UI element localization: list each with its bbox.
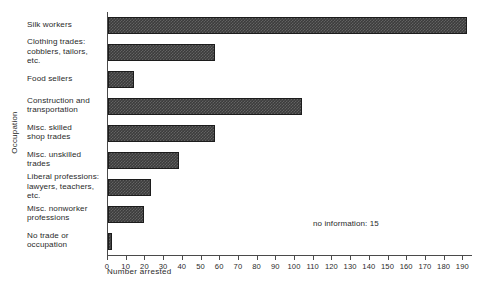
- category-label-line: Liberal professions:: [27, 172, 105, 182]
- x-tick-mark: [294, 255, 295, 260]
- category-label-line: Misc. nonworker: [27, 204, 105, 214]
- category-label-line: Misc. skilled: [27, 123, 105, 133]
- category-label-group: Silk workersClothing trades:cobblers, ta…: [0, 0, 104, 256]
- x-tick-mark: [144, 255, 145, 260]
- category-label-line: Clothing trades:: [27, 37, 105, 47]
- category-label: Construction andtransportation: [27, 96, 105, 115]
- x-tick-mark: [444, 255, 445, 260]
- bar: [108, 125, 215, 142]
- category-label-line: cobblers, tailors,: [27, 47, 105, 57]
- bar-chart: Occupation Silk workersClothing trades:c…: [0, 0, 483, 290]
- category-label-line: transportation: [27, 105, 105, 115]
- category-label-line: shop trades: [27, 132, 105, 142]
- category-label-line: Misc. unskilled: [27, 150, 105, 160]
- category-label: No trade oroccupation: [27, 231, 105, 250]
- category-label: Misc. unskilledtrades: [27, 150, 105, 169]
- x-tick-mark: [350, 255, 351, 260]
- category-label: Liberal professions:lawyers, teachers,et…: [27, 172, 105, 201]
- category-label: Silk workers: [27, 20, 105, 30]
- x-tick-mark: [313, 255, 314, 260]
- category-label-line: Construction and: [27, 96, 105, 106]
- category-label-line: occupation: [27, 240, 105, 250]
- category-label: Food sellers: [27, 74, 105, 84]
- x-tick-mark: [388, 255, 389, 260]
- x-tick-mark: [219, 255, 220, 260]
- category-label: Misc. nonworkerprofessions: [27, 204, 105, 223]
- bar: [108, 17, 467, 34]
- x-tick-mark: [275, 255, 276, 260]
- category-label-line: lawyers, teachers,: [27, 182, 105, 192]
- x-tick-mark: [425, 255, 426, 260]
- x-axis-title: Number arrested: [107, 267, 479, 276]
- x-tick-mark: [406, 255, 407, 260]
- bar: [108, 98, 302, 115]
- category-label-line: etc.: [27, 191, 105, 201]
- x-tick-mark: [107, 255, 108, 260]
- category-label: Clothing trades:cobblers, tailors,etc.: [27, 37, 105, 66]
- no-information-annotation: no information: 15: [313, 219, 379, 228]
- bar: [108, 206, 144, 223]
- x-tick-mark: [163, 255, 164, 260]
- x-tick-mark: [238, 255, 239, 260]
- bar: [108, 233, 112, 250]
- x-tick-mark: [201, 255, 202, 260]
- category-label-line: No trade or: [27, 231, 105, 241]
- x-tick-mark: [331, 255, 332, 260]
- category-label-line: Food sellers: [27, 74, 105, 84]
- bar: [108, 179, 151, 196]
- category-label-line: trades: [27, 159, 105, 169]
- category-label-line: etc.: [27, 56, 105, 66]
- category-label-line: Silk workers: [27, 20, 105, 30]
- x-tick-mark: [369, 255, 370, 260]
- category-label-line: professions: [27, 213, 105, 223]
- x-tick-mark: [126, 255, 127, 260]
- plot-area: 0102030405060708090100110120130140150160…: [107, 12, 479, 255]
- bar: [108, 152, 179, 169]
- bar: [108, 44, 215, 61]
- x-axis-line: [107, 255, 472, 256]
- bar: [108, 71, 134, 88]
- x-tick-mark: [182, 255, 183, 260]
- x-tick-mark: [257, 255, 258, 260]
- x-tick-mark: [462, 255, 463, 260]
- category-label: Misc. skilledshop trades: [27, 123, 105, 142]
